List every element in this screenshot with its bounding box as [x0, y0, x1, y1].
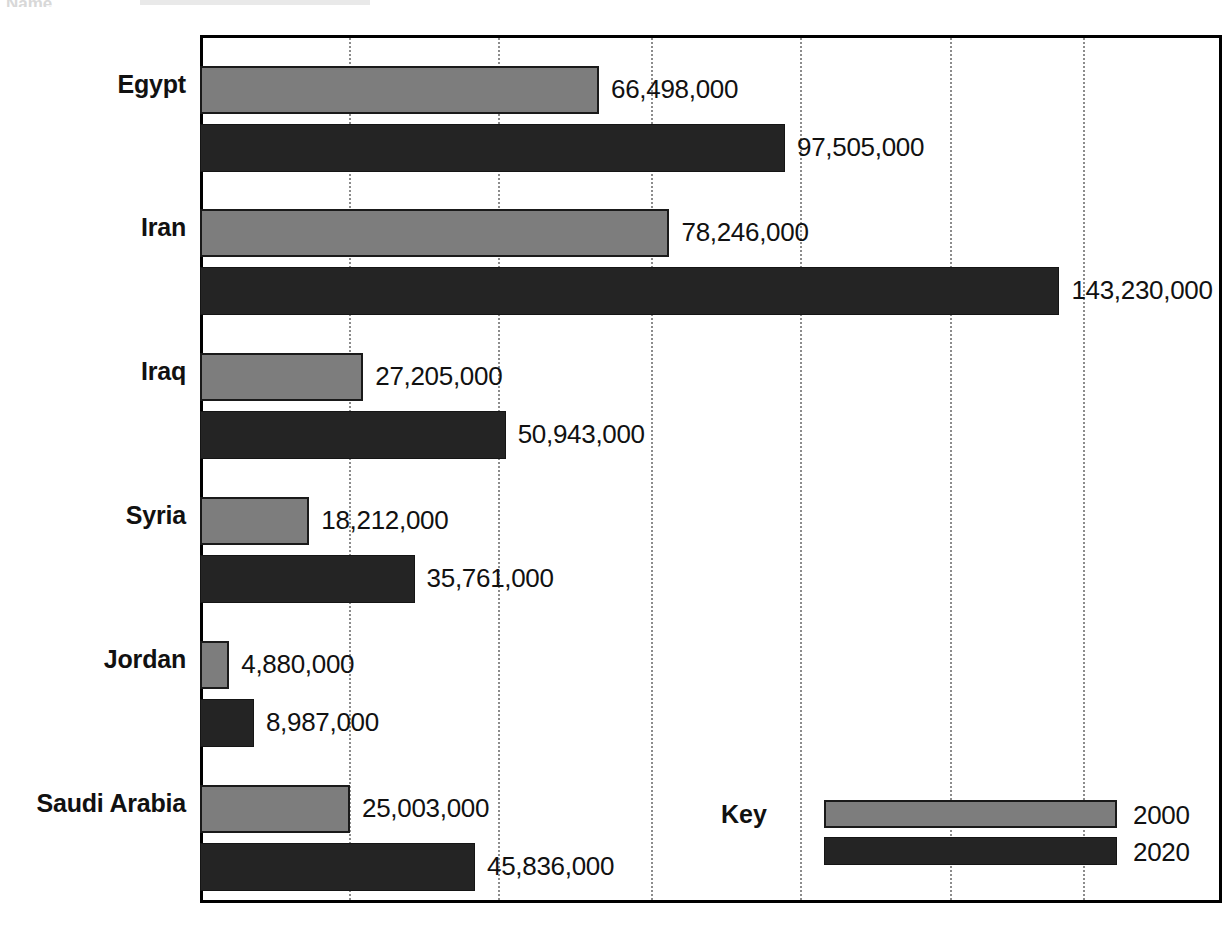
- bar-syria-2020: [200, 555, 415, 603]
- category-label-egypt: Egypt: [118, 70, 186, 99]
- bar-value-syria-2020: 35,761,000: [427, 563, 554, 594]
- bar-syria-2000: [200, 497, 309, 545]
- cut-off-header-rule: [140, 0, 370, 5]
- bar-value-jordan-2020: 8,987,000: [266, 707, 379, 738]
- cut-off-header-text: Name: [6, 0, 126, 7]
- bar-value-iraq-2020: 50,943,000: [518, 419, 645, 450]
- bar-iraq-2000: [200, 353, 363, 401]
- legend-label-2000: 2000: [1133, 800, 1190, 831]
- bar-iraq-2020: [200, 411, 506, 459]
- bar-egypt-2000: [200, 66, 599, 114]
- legend-swatch-2020: [824, 837, 1117, 865]
- bar-value-syria-2000: 18,212,000: [321, 505, 448, 536]
- category-label-iraq: Iraq: [141, 357, 186, 386]
- gridline-3: [800, 38, 802, 900]
- bar-value-egypt-2020: 97,505,000: [797, 132, 924, 163]
- bar-egypt-2020: [200, 124, 785, 172]
- bar-value-saudi-arabia-2020: 45,836,000: [487, 851, 614, 882]
- bar-value-iraq-2000: 27,205,000: [375, 361, 502, 392]
- legend-title: Key: [721, 800, 767, 829]
- category-label-saudi-arabia: Saudi Arabia: [37, 789, 187, 818]
- bar-jordan-2000: [200, 641, 229, 689]
- gridline-5: [1083, 38, 1085, 900]
- chart-page: Name EgyptIranIraqSyriaJordanSaudi Arabi…: [0, 0, 1229, 934]
- bar-value-jordan-2000: 4,880,000: [241, 649, 354, 680]
- legend-label-2020: 2020: [1133, 837, 1190, 868]
- category-label-jordan: Jordan: [104, 645, 186, 674]
- bar-value-iran-2020: 143,230,000: [1071, 275, 1212, 306]
- legend-swatch-2000: [824, 800, 1117, 828]
- category-label-syria: Syria: [126, 501, 186, 530]
- bar-iran-2000: [200, 209, 669, 257]
- bar-value-saudi-arabia-2000: 25,003,000: [362, 793, 489, 824]
- bar-saudi-arabia-2020: [200, 843, 475, 891]
- bar-saudi-arabia-2000: [200, 785, 350, 833]
- bar-iran-2020: [200, 267, 1059, 315]
- bar-value-iran-2000: 78,246,000: [681, 217, 808, 248]
- gridline-4: [950, 38, 952, 900]
- category-label-iran: Iran: [141, 213, 186, 242]
- bar-jordan-2020: [200, 699, 254, 747]
- bar-value-egypt-2000: 66,498,000: [611, 74, 738, 105]
